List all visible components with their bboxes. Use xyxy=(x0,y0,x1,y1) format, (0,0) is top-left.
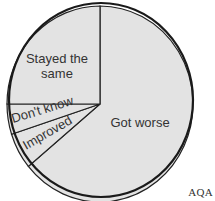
pie-chart: Got worse Stayed the same Don't know Imp… xyxy=(0,0,215,201)
label-stayed-the-same-line1: Stayed the xyxy=(26,51,88,66)
label-got-worse: Got worse xyxy=(110,115,169,130)
source-credit: AQA xyxy=(188,186,213,198)
label-stayed-the-same-line2: same xyxy=(41,66,73,81)
